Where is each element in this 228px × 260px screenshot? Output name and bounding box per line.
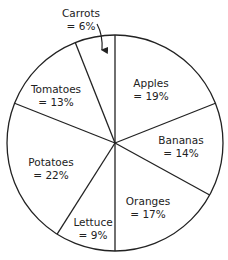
slice-value: = 6%: [67, 20, 96, 32]
pie-chart: Apples= 19%Bananas= 14%Oranges= 17%Lettu…: [0, 0, 228, 260]
slice-value: = 9%: [79, 229, 108, 241]
slice-name: Apples: [133, 77, 168, 89]
slice-value: = 14%: [163, 147, 198, 159]
slice-value: = 13%: [38, 96, 73, 108]
slice-name: Lettuce: [73, 216, 112, 228]
slice-label-tomatoes: Tomatoes= 13%: [30, 83, 81, 108]
slice-name: Potatoes: [28, 156, 73, 168]
slice-value: = 19%: [133, 90, 168, 102]
slice-name: Tomatoes: [30, 83, 81, 95]
slice-name: Carrots: [62, 7, 100, 19]
slice-label-potatoes: Potatoes= 22%: [28, 156, 73, 181]
slice-value: = 22%: [33, 169, 68, 181]
slice-name: Bananas: [158, 134, 203, 146]
slice-label-bananas: Bananas= 14%: [158, 134, 203, 159]
slice-label-carrots: Carrots= 6%: [62, 7, 100, 32]
slice-name: Oranges: [126, 195, 170, 207]
slice-value: = 17%: [130, 208, 165, 220]
slice-label-lettuce: Lettuce= 9%: [73, 216, 112, 241]
slice-label-oranges: Oranges= 17%: [126, 195, 170, 220]
slice-label-apples: Apples= 19%: [133, 77, 168, 102]
